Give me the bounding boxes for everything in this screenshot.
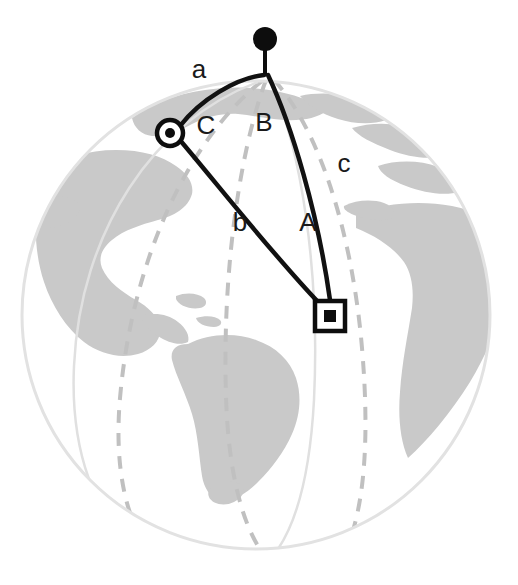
north-pole-dot (253, 27, 277, 51)
angle-label-A: A (299, 207, 317, 237)
angle-label-B: B (255, 107, 272, 137)
target-vertex-marker[interactable] (315, 301, 345, 331)
observer-vertex-marker[interactable] (157, 120, 183, 146)
target-vertex-inner-square (324, 310, 336, 322)
globe-diagram: a b c A B C (0, 0, 518, 585)
side-label-a: a (192, 54, 207, 84)
angle-label-C: C (197, 110, 216, 140)
spherical-triangle-figure: a b c A B C (0, 0, 518, 585)
side-label-c: c (338, 148, 351, 178)
observer-vertex-dot (165, 128, 175, 138)
side-label-b: b (233, 207, 247, 237)
